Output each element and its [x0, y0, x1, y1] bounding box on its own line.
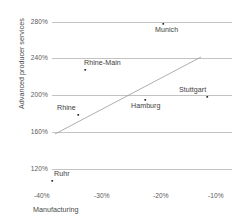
data-point-hamburg[interactable] [144, 99, 146, 101]
point-label-ruhr: Ruhr [54, 171, 70, 178]
data-points [51, 23, 208, 182]
point-label-rhine-main: Rhine-Main [84, 60, 121, 67]
point-label-munich: Munich [155, 27, 178, 34]
point-label-stuttgart: Stuttgart [179, 87, 206, 94]
x-tick-40: -40% [34, 193, 50, 200]
point-label-rhine: Rhine [57, 105, 76, 112]
x-axis-title: Manufacturing [33, 206, 79, 213]
data-point-ruhr[interactable] [51, 180, 53, 182]
x-tick-30: -30% [94, 193, 110, 200]
point-label-hamburg: Hamburg [131, 103, 161, 110]
plot-area [0, 0, 236, 224]
x-tick-10: -10% [208, 193, 224, 200]
data-point-munich[interactable] [162, 23, 164, 25]
x-tick-20: -20% [153, 193, 169, 200]
y-tick-120: 120% [20, 166, 48, 173]
y-tick-160: 160% [20, 129, 48, 136]
scatter-chart: 280% 240% 200% 160% 120% -40% -30% -20% … [0, 0, 236, 224]
gridlines [52, 23, 232, 170]
data-point-rhine-main[interactable] [84, 69, 86, 71]
data-point-stuttgart[interactable] [206, 96, 208, 98]
data-point-rhine[interactable] [77, 114, 79, 116]
y-axis-title: Advanced producer services [18, 14, 25, 114]
